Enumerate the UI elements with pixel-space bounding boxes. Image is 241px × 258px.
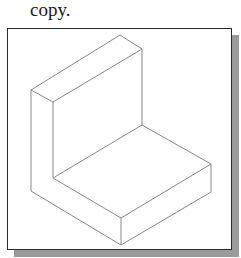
upright-top-face bbox=[31, 35, 142, 102]
base-back-edge bbox=[53, 125, 142, 178]
isometric-l-bracket-drawing bbox=[0, 0, 241, 258]
base-right-back-edge bbox=[142, 125, 211, 164]
base-front-right-top-edge bbox=[121, 164, 211, 218]
base-front-left-top-edge bbox=[53, 178, 121, 218]
